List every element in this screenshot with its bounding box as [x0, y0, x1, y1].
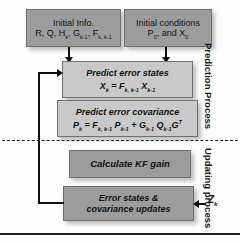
node-calculate-kf-gain: Calculate KF gain	[69, 150, 191, 178]
predict-error-states-title: Predict error states	[86, 68, 169, 78]
feedback-loop-bottom-segment	[38, 202, 64, 204]
error-states-updates-line2: covariance updates	[86, 204, 170, 214]
arrowhead-left-icon	[193, 200, 199, 208]
node-initial-conditions: Initial conditions P0, and X0	[124, 9, 212, 47]
feedback-loop-left-segment	[38, 72, 40, 203]
label-prediction-process: Prediction Process	[203, 43, 214, 129]
node-initial-info: Initial Info. R, Q, Hk, Gk-1, Fk, k-1	[26, 9, 121, 47]
node-error-states-covariance-updates: Error states & covariance updates	[63, 186, 194, 221]
initial-conditions-parameters: P0, and X0	[148, 28, 189, 38]
page-rule-divider	[0, 233, 240, 235]
initial-info-parameters: R, Q, Hk, Gk-1, Fk, k-1	[35, 28, 112, 38]
predict-error-covariance-equation: Pk = Fk, k-1 Pk-1 + Gk-1 Qk-1GT	[73, 120, 182, 130]
node-predict-error-covariance: Predict error covariance Pk = Fk, k-1 Pk…	[57, 100, 198, 137]
label-updating-process: Updating process	[203, 148, 214, 228]
node-predict-error-states: Predict error states Xk = Fk, k-1 Xk-1	[62, 61, 193, 98]
predict-error-states-equation: Xk = Fk, k-1 Xk-1	[100, 81, 156, 91]
predict-error-covariance-title: Predict error covariance	[76, 107, 180, 117]
calculate-kf-gain-title: Calculate KF gain	[90, 159, 170, 170]
initial-conditions-title: Initial conditions	[136, 18, 200, 28]
initial-info-title: Initial Info.	[53, 18, 94, 28]
kalman-filter-flowchart: Initial Info. R, Q, Hk, Gk-1, Fk, k-1 In…	[0, 0, 240, 243]
error-states-updates-line1: Error states &	[99, 193, 159, 203]
arrowhead-right-icon	[57, 69, 63, 77]
